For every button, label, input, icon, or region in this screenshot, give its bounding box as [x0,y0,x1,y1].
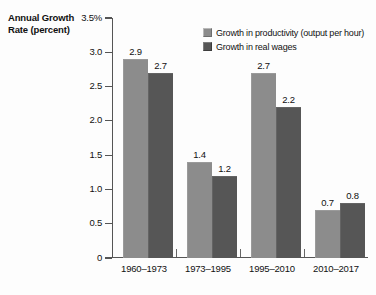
y-axis-tick-label: 3.0 [68,47,102,57]
legend-label-real-wages: Growth in real wages [216,42,297,52]
legend-item-real-wages: Growth in real wages [203,41,364,52]
bar-real-wages [276,107,301,258]
y-axis-tick [105,189,112,190]
y-axis-tick [105,223,112,224]
y-axis-title-line-2: Rate (percent) [8,24,90,36]
legend-swatch-productivity [203,28,212,37]
y-axis-tick-label: 1.0 [68,184,102,194]
bar-value-label: 2.7 [146,60,176,71]
bar-value-label: 2.2 [274,94,304,105]
y-axis-tick [105,257,112,258]
y-axis-tick [105,120,112,121]
y-axis-tick-label: 3.5% [68,13,102,23]
y-axis-tick-label: 2.0 [68,115,102,125]
legend-swatch-real-wages [203,42,212,51]
x-axis-category-label: 2010–2017 [296,263,376,274]
bar-real-wages [340,203,365,258]
bar-value-label: 0.8 [338,190,368,201]
bar-productivity [251,73,276,258]
legend-label-productivity: Growth in productivity (output per hour) [216,28,364,38]
x-axis-tick [304,249,305,257]
y-axis-tick [105,17,112,18]
legend-item-productivity: Growth in productivity (output per hour) [203,27,364,38]
x-axis-tick [176,249,177,257]
bar-chart: Annual Growth Rate (percent) 00.51.01.52… [0,0,376,295]
y-axis-tick-label: 2.5 [68,81,102,91]
bar-group: 2.92.7 [123,18,173,258]
bar-productivity [187,162,212,258]
bar-value-label: 1.2 [210,163,240,174]
y-axis-tick [105,52,112,53]
x-axis-tick [240,249,241,257]
bar-real-wages [148,73,173,258]
y-axis-tick-label: 0 [68,253,102,263]
bar-real-wages [212,176,237,258]
y-axis-tick-label: 1.5 [68,150,102,160]
bar-value-label: 2.7 [249,60,279,71]
legend: Growth in productivity (output per hour)… [203,27,364,55]
bar-productivity [123,59,148,258]
bar-value-label: 2.9 [121,46,151,57]
bar-value-label: 1.4 [185,149,215,160]
bar-productivity [315,210,340,258]
y-axis-tick [105,86,112,87]
y-axis-tick [105,155,112,156]
y-axis-tick-label: 0.5 [68,218,102,228]
